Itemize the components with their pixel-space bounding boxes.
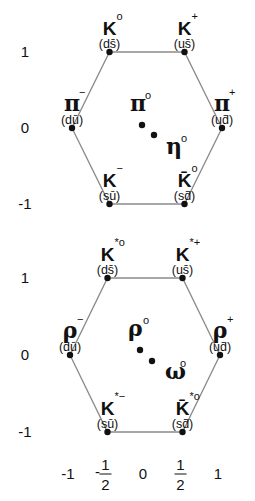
- quark-content: (sd̄): [172, 417, 194, 431]
- particle-charge: *o: [190, 390, 200, 402]
- particle-symbol: K: [101, 398, 115, 419]
- center-particle-symbol: π: [130, 90, 146, 116]
- particle-symbol: K̄: [178, 170, 192, 191]
- quark-content: (ds̄): [99, 37, 121, 51]
- particle-symbol: K: [101, 244, 115, 265]
- x-axis-tick-label: 1: [214, 465, 222, 482]
- y-axis-tick-label: 1: [21, 269, 29, 286]
- y-axis-tick-label: -1: [18, 423, 31, 440]
- particle-charge: *+: [190, 236, 201, 248]
- particle-symbol: K: [103, 18, 117, 39]
- fraction-numerator: 1: [101, 456, 109, 473]
- particle-charge: +: [227, 313, 233, 325]
- vector-diagram: K*o(ds̄)K*+(us̄)ρ−(dū)ρ+(ud̄)K*−(sū)K̄*o…: [18, 236, 233, 440]
- quark-content: (ds̄): [97, 263, 119, 277]
- x-axis-tick-label: -1: [61, 465, 74, 482]
- particle-symbol: K̄: [176, 398, 190, 419]
- x-axis-tick-label: 12-: [95, 456, 112, 493]
- hexagon-edges: [72, 52, 222, 204]
- particle-symbol: K: [103, 170, 117, 191]
- center-particle-charge: o: [181, 132, 187, 144]
- particle-charge: −: [77, 313, 83, 325]
- particle-charge: *−: [115, 390, 126, 402]
- particle-charge: *o: [115, 236, 125, 248]
- particle-charge: +: [192, 10, 198, 22]
- y-axis-tick-label: 0: [21, 346, 29, 363]
- tick-text: 1: [214, 465, 222, 482]
- quark-content: (us̄): [174, 37, 196, 51]
- pseudoscalar-diagram: Ko(ds̄)K+(us̄)π−(dū)π+(ud̄)K−(sū)K̄o(sd̄…: [18, 10, 235, 212]
- hexagon-edges: [70, 278, 220, 432]
- tick-text: 0: [139, 465, 147, 482]
- fraction-denominator: 2: [176, 476, 184, 493]
- meson-octet-diagrams: Ko(ds̄)K+(us̄)π−(dū)π+(ud̄)K−(sū)K̄o(sd̄…: [0, 0, 255, 501]
- center-particle-symbol: η: [166, 133, 182, 159]
- particle-charge: −: [79, 86, 85, 98]
- particle-charge: −: [117, 162, 123, 174]
- fraction-denominator: 2: [101, 476, 109, 493]
- center-particle-dot: [149, 358, 155, 364]
- minus-sign: -: [95, 463, 100, 480]
- particle-symbol: K: [176, 244, 190, 265]
- quark-content: (dū): [59, 340, 81, 354]
- quark-content: (dū): [61, 113, 83, 127]
- x-axis-tick-label: 0: [139, 465, 147, 482]
- y-axis-tick-label: 1: [21, 43, 29, 60]
- center-particle-dot: [151, 132, 157, 138]
- x-axis-tick-label: 12: [175, 456, 187, 493]
- particle-charge: o: [117, 10, 123, 22]
- center-particle-dot: [137, 347, 143, 353]
- center-particle-charge: o: [143, 314, 149, 326]
- particle-charge: o: [192, 162, 198, 174]
- y-axis-tick-label: -1: [18, 195, 31, 212]
- quark-content: (ud̄): [209, 340, 231, 354]
- quark-content: (sū): [99, 189, 121, 203]
- quark-content: (sū): [97, 417, 119, 431]
- y-axis-tick-label: 0: [21, 119, 29, 136]
- particle-symbol: K: [178, 18, 192, 39]
- quark-content: (ud̄): [211, 113, 233, 127]
- center-particle-dot: [139, 122, 145, 128]
- center-particle-charge: o: [180, 357, 186, 369]
- center-particle-symbol: ρ: [128, 315, 143, 341]
- quark-content: (us̄): [172, 263, 194, 277]
- tick-text: -1: [61, 465, 74, 482]
- fraction-numerator: 1: [176, 456, 184, 473]
- particle-charge: +: [229, 86, 235, 98]
- center-particle-charge: o: [145, 89, 151, 101]
- quark-content: (sd̄): [174, 189, 196, 203]
